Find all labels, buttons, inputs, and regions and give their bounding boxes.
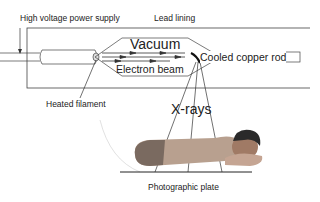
- decor-curve: [100, 120, 140, 172]
- filament: [93, 53, 99, 61]
- label-copper-rod: Cooled copper rod: [200, 51, 286, 63]
- label-vacuum: Vacuum: [130, 36, 180, 52]
- electron-beam-arrows: [102, 52, 185, 63]
- filament-pointer: [80, 60, 96, 98]
- label-lead-lining: Lead lining: [154, 13, 195, 23]
- label-photographic-plate: Photographic plate: [148, 182, 219, 192]
- label-electron-beam: Electron beam: [116, 63, 184, 75]
- cathode-tube: [40, 50, 97, 64]
- label-filament: Heated filament: [46, 99, 106, 109]
- label-xrays: X-rays: [171, 101, 211, 117]
- anode-target: [191, 53, 200, 63]
- patient-figure: [135, 130, 262, 166]
- label-power-supply: High voltage power supply: [20, 13, 120, 23]
